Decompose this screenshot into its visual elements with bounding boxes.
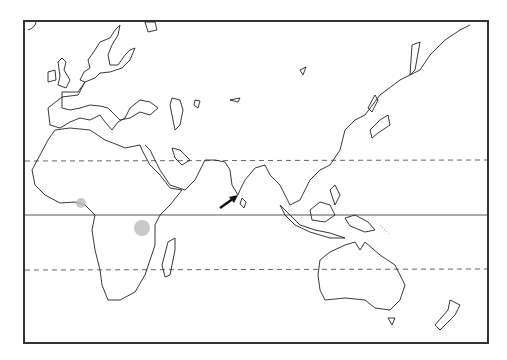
tropic-of-cancer-line bbox=[25, 160, 487, 161]
east-africa-shaded-region bbox=[134, 220, 150, 236]
africa-outline bbox=[32, 128, 182, 300]
asia-outline bbox=[145, 25, 470, 208]
tropic-of-capricorn-line bbox=[25, 269, 487, 270]
southeast-asia-outline bbox=[280, 185, 390, 238]
arrow-marker-icon bbox=[220, 195, 238, 208]
west-africa-shaded-region bbox=[76, 198, 86, 208]
australia-outline bbox=[318, 242, 460, 330]
europe-outline bbox=[28, 22, 240, 130]
map-frame bbox=[24, 21, 488, 343]
world-outline-map bbox=[0, 0, 507, 360]
